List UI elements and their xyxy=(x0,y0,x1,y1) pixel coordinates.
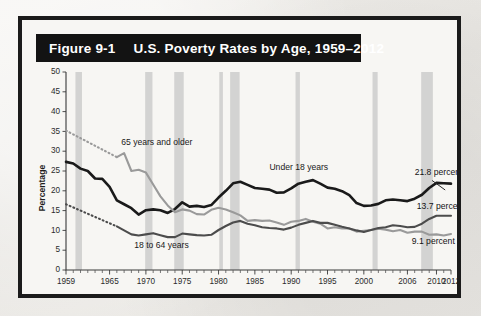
x-axis-tick-label: 1970 xyxy=(137,277,156,286)
figure-number: Figure 9-1 xyxy=(49,41,116,56)
y-axis-tick-label: 35 xyxy=(51,127,61,136)
series-end-value-label: 21.8 percent xyxy=(415,167,457,177)
plot-area: 0510152025303540455019591965197019751980… xyxy=(36,60,449,288)
series-name-label: 18 to 64 years xyxy=(134,240,188,250)
x-axis-tick-label: 1990 xyxy=(282,277,301,286)
axis-tick-labels: 0510152025303540455019591965197019751980… xyxy=(51,67,457,286)
series-line-18-to-64-years xyxy=(117,216,451,237)
recession-band xyxy=(230,72,239,270)
series-name-label: 65 years and older xyxy=(121,137,192,147)
recession-band xyxy=(373,72,378,270)
series-end-value-label: 13.7 percent xyxy=(417,201,457,211)
y-axis-tick-label: 25 xyxy=(51,166,61,175)
y-axis-tick-label: 40 xyxy=(51,107,61,116)
chart-axes xyxy=(63,72,452,275)
y-axis-tick-label: 45 xyxy=(51,87,61,96)
y-axis-tick-label: 20 xyxy=(51,186,61,195)
recession-band xyxy=(75,72,82,270)
y-axis-tick-label: 10 xyxy=(51,226,61,235)
series-name-label: Under 18 years xyxy=(269,162,328,172)
figure-title: U.S. Poverty Rates by Age, 1959–2012 xyxy=(134,41,385,56)
y-axis-tick-label: 15 xyxy=(51,206,61,215)
x-axis-tick-label: 2006 xyxy=(398,277,417,286)
series-line-under-18-years xyxy=(66,162,451,215)
y-axis-tick-label: 50 xyxy=(51,67,61,76)
x-axis-tick-label: 1980 xyxy=(209,277,228,286)
y-axis-tick-label: 30 xyxy=(51,146,61,155)
series-line-dotted-65-years-and-older xyxy=(66,131,117,158)
x-axis-tick-label: 1965 xyxy=(100,277,119,286)
x-axis-tick-label: 2012 xyxy=(442,277,457,286)
y-axis-tick-label: 0 xyxy=(55,265,60,274)
recession-band xyxy=(219,72,223,270)
recession-bands xyxy=(75,72,432,270)
poverty-rate-line-chart: 0510152025303540455019591965197019751980… xyxy=(36,60,457,296)
axis-lines xyxy=(66,72,451,270)
x-axis-tick-label: 1975 xyxy=(173,277,192,286)
x-axis-tick-label: 1985 xyxy=(246,277,265,286)
x-axis-tick-label: 2000 xyxy=(355,277,374,286)
x-axis-tick-label: 1995 xyxy=(318,277,337,286)
y-axis-title: Percentage xyxy=(37,165,47,212)
figure-title-bar: Figure 9-1 U.S. Poverty Rates by Age, 19… xyxy=(36,34,361,62)
figure-page: Figure 9-1 U.S. Poverty Rates by Age, 19… xyxy=(0,0,481,316)
x-axis-tick-label: 1959 xyxy=(57,277,76,286)
y-axis-tick-label: 5 xyxy=(55,245,60,254)
series-end-value-label: 9.1 percent xyxy=(412,236,456,246)
figure-container: Figure 9-1 U.S. Poverty Rates by Age, 19… xyxy=(18,16,461,298)
series-line-dotted-18-to-64-years xyxy=(66,204,117,226)
